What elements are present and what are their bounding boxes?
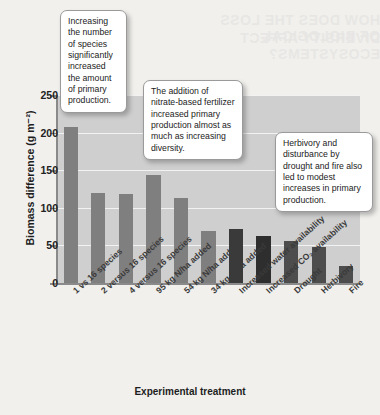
x-axis-title: Experimental treatment (0, 386, 380, 397)
callout-fertilizer: The addition of nitrate-based fertilizer… (143, 80, 243, 160)
callout-diversity: Increasing the number of species signifi… (60, 10, 127, 113)
y-axis-tick-label: 0 (18, 277, 58, 289)
y-axis-tick-label: 200 (18, 127, 58, 139)
y-axis-line (56, 95, 58, 284)
y-axis-tick-label: 100 (18, 202, 58, 214)
y-axis-tick-label: 250 (18, 89, 58, 101)
callout-disturbance: Herbivory and disturbance by drought and… (275, 132, 373, 212)
y-axis-tick-label: 50 (18, 239, 58, 251)
y-axis-tick-label: 150 (18, 164, 58, 176)
bar[interactable] (64, 127, 78, 283)
